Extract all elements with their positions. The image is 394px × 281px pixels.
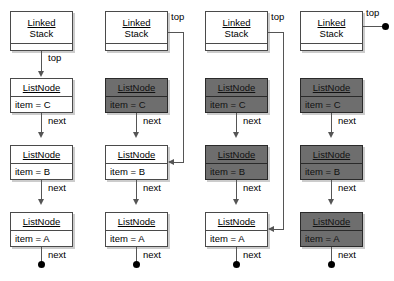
list-node-a-title-4: ListNode — [301, 213, 362, 230]
stage-column-3: Linked Stack top ListNode item = C next … — [195, 0, 290, 281]
list-node-c-item-1: item = C — [11, 97, 72, 112]
next-label-a-3: next — [243, 249, 261, 260]
list-node-b-title-1: ListNode — [11, 146, 72, 163]
list-node-a-1: ListNode item = A — [10, 212, 73, 247]
next-line-c-1 — [41, 113, 42, 133]
list-node-b-3: ListNode item = B — [205, 145, 268, 180]
list-node-b-item-2: item = B — [106, 164, 167, 179]
next-label-b-2: next — [143, 182, 161, 193]
list-node-b-title-3: ListNode — [206, 146, 267, 163]
next-line-b-3 — [236, 180, 237, 200]
top-pointer-arrow-3 — [268, 226, 274, 232]
list-node-b-1: ListNode item = B — [10, 145, 73, 180]
list-node-c-title-text-4: ListNode — [313, 82, 351, 93]
list-node-c-4: ListNode item = C — [300, 78, 363, 113]
next-label-c-4: next — [338, 115, 356, 126]
next-label-c-2: next — [143, 115, 161, 126]
next-arrow-c-3 — [233, 132, 239, 138]
list-node-a-title-text-4: ListNode — [313, 216, 351, 227]
next-arrow-b-4 — [328, 199, 334, 205]
top-pointer-seg-h2-2 — [174, 162, 184, 163]
list-node-c-title-text-3: ListNode — [218, 82, 256, 93]
linked-stack-title-1: Linked Stack — [11, 12, 72, 43]
stage-column-4: Linked Stack top ListNode item = C next … — [290, 0, 385, 281]
list-node-a-4: ListNode item = A — [300, 212, 363, 247]
list-node-b-title-text-3: ListNode — [218, 149, 256, 160]
next-arrow-b-1 — [38, 199, 44, 205]
next-label-a-2: next — [143, 249, 161, 260]
top-label-3: top — [271, 11, 284, 22]
next-label-b-1: next — [48, 182, 66, 193]
list-node-a-title-2: ListNode — [106, 213, 167, 230]
next-arrow-b-2 — [133, 199, 139, 205]
list-node-c-title-3: ListNode — [206, 79, 267, 96]
next-line-c-2 — [136, 113, 137, 133]
linked-stack-top-slot-4 — [301, 44, 362, 51]
top-pointer-seg-v-3 — [283, 32, 284, 229]
list-node-c-2: ListNode item = C — [105, 78, 168, 113]
list-node-c-title-2: ListNode — [106, 79, 167, 96]
list-node-a-item-2: item = A — [106, 231, 167, 246]
top-null-terminator-dot-4 — [382, 23, 389, 30]
linked-stack-line2-4: Stack — [320, 28, 344, 39]
list-node-a-title-text-3: ListNode — [218, 216, 256, 227]
linked-stack-box-2: Linked Stack — [105, 11, 168, 51]
list-node-a-title-text-2: ListNode — [118, 216, 156, 227]
linked-stack-line1-1: Linked — [28, 17, 56, 28]
top-pointer-seg-h-4 — [363, 26, 383, 27]
linked-stack-top-slot-2 — [106, 44, 167, 51]
linked-stack-line2-2: Stack — [125, 28, 149, 39]
next-line-b-2 — [136, 180, 137, 200]
list-node-a-2: ListNode item = A — [105, 212, 168, 247]
next-line-c-4 — [331, 113, 332, 133]
next-label-c-1: next — [48, 115, 66, 126]
list-node-a-title-3: ListNode — [206, 213, 267, 230]
null-terminator-dot-3 — [233, 261, 240, 268]
next-label-a-4: next — [338, 249, 356, 260]
list-node-b-title-2: ListNode — [106, 146, 167, 163]
linked-stack-title-2: Linked Stack — [106, 12, 167, 43]
list-node-c-item-3: item = C — [206, 97, 267, 112]
linked-stack-top-slot-3 — [206, 44, 267, 51]
list-node-b-item-4: item = B — [301, 164, 362, 179]
linked-stack-top-slot-1 — [11, 44, 72, 51]
next-arrow-c-2 — [133, 132, 139, 138]
linked-stack-box-4: Linked Stack — [300, 11, 363, 51]
stage-column-2: Linked Stack top ListNode item = C next … — [95, 0, 190, 281]
top-pointer-seg-h1-3 — [268, 32, 284, 33]
top-pointer-seg-v-2 — [183, 32, 184, 162]
top-label-1: top — [48, 52, 61, 63]
list-node-b-title-text-1: ListNode — [23, 149, 61, 160]
top-pointer-seg-h2-3 — [274, 229, 284, 230]
linked-stack-line1-4: Linked — [318, 17, 346, 28]
next-label-a-1: next — [48, 249, 66, 260]
null-terminator-dot-2 — [133, 261, 140, 268]
next-arrow-c-1 — [38, 132, 44, 138]
list-node-c-title-4: ListNode — [301, 79, 362, 96]
list-node-c-title-text-1: ListNode — [23, 82, 61, 93]
top-pointer-arrow-1 — [38, 71, 44, 77]
linked-stack-line2-3: Stack — [225, 28, 249, 39]
next-label-c-3: next — [243, 115, 261, 126]
top-label-4: top — [366, 7, 379, 18]
next-arrow-c-4 — [328, 132, 334, 138]
null-terminator-dot-1 — [38, 261, 45, 268]
linked-stack-line1-2: Linked — [123, 17, 151, 28]
list-node-c-title-1: ListNode — [11, 79, 72, 96]
linked-stack-title-4: Linked Stack — [301, 12, 362, 43]
list-node-b-item-1: item = B — [11, 164, 72, 179]
list-node-c-item-4: item = C — [301, 97, 362, 112]
next-arrow-b-3 — [233, 199, 239, 205]
top-label-2: top — [171, 11, 184, 22]
list-node-a-item-1: item = A — [11, 231, 72, 246]
next-line-c-3 — [236, 113, 237, 133]
top-pointer-arrow-2 — [168, 159, 174, 165]
next-line-b-4 — [331, 180, 332, 200]
top-pointer-seg-h1-2 — [168, 32, 184, 33]
linked-stack-box-1: Linked Stack — [10, 11, 73, 51]
next-line-b-1 — [41, 180, 42, 200]
list-node-a-item-4: item = A — [301, 231, 362, 246]
list-node-a-3: ListNode item = A — [205, 212, 268, 247]
list-node-c-title-text-2: ListNode — [118, 82, 156, 93]
list-node-b-4: ListNode item = B — [300, 145, 363, 180]
